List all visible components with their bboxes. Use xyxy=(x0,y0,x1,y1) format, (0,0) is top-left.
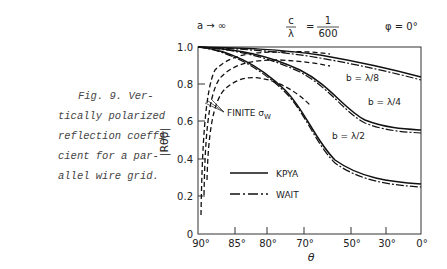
legend-wait-label: WAIT xyxy=(276,190,299,200)
x-tick-labels: 90° 85° 80° 70° 50° 30° 0° xyxy=(192,238,428,249)
svg-text:50°: 50° xyxy=(343,238,361,249)
curve-finite-lambda2 xyxy=(207,78,310,180)
ratio-numerator: c xyxy=(288,15,294,26)
svg-text:1.0: 1.0 xyxy=(177,42,193,53)
chart: a → ∞ c λ = 1 600 φ = 0° 0 0.2 0.4 0.6 0… xyxy=(0,0,447,269)
y-tick-labels: 0 0.2 0.4 0.6 0.8 1.0 xyxy=(177,42,193,240)
ratio-value-numerator: 1 xyxy=(325,15,331,26)
x-axis-label: θ xyxy=(308,251,315,264)
label-b-lambda8: b = λ/8 xyxy=(346,73,379,83)
svg-text:80°: 80° xyxy=(259,238,277,249)
ratio-value-denominator: 600 xyxy=(318,28,337,39)
svg-text:0°: 0° xyxy=(416,238,427,249)
svg-text:90°: 90° xyxy=(192,238,210,249)
svg-text:85°: 85° xyxy=(228,238,246,249)
curve-wait-lambda4 xyxy=(198,47,421,133)
svg-text:30°: 30° xyxy=(378,238,396,249)
svg-text:0.2: 0.2 xyxy=(177,191,193,202)
ratio-equals: = xyxy=(306,21,314,32)
svg-text:0.6: 0.6 xyxy=(177,116,193,127)
label-b-lambda4: b = λ/4 xyxy=(368,97,401,107)
legend-kpya-label: KPYA xyxy=(276,169,299,179)
x-ticks xyxy=(235,227,386,234)
svg-text:0.8: 0.8 xyxy=(177,79,193,90)
param-a: a → ∞ xyxy=(197,20,226,31)
param-phi: φ = 0° xyxy=(385,21,418,32)
svg-text:0.4: 0.4 xyxy=(177,154,193,165)
label-b-lambda2: b = λ/2 xyxy=(332,131,365,141)
finite-sigma-label: FINITE σW xyxy=(227,108,271,121)
ratio-denominator: λ xyxy=(288,28,294,39)
svg-text:70°: 70° xyxy=(296,238,314,249)
y-axis-label: |Rθθ| xyxy=(158,128,171,157)
legend: KPYA WAIT xyxy=(230,169,299,200)
